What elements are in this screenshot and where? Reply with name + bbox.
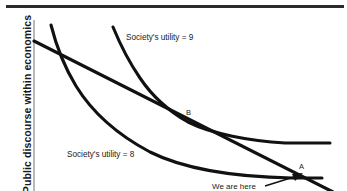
- curve-label-society-utility-9: Society's utility = 9: [126, 33, 193, 42]
- annotation-we-are-here: We are here: [212, 182, 256, 191]
- curve-society-utility-9: [113, 27, 330, 143]
- chart-plot-area: [0, 0, 347, 191]
- budget-constraint-line: [34, 41, 333, 191]
- curve-label-society-utility-8: Society's utility = 8: [67, 150, 134, 159]
- figure-container: Public discourse within economics Societ…: [0, 0, 347, 191]
- point-label-a: A: [299, 162, 304, 171]
- point-label-b: B: [186, 108, 191, 117]
